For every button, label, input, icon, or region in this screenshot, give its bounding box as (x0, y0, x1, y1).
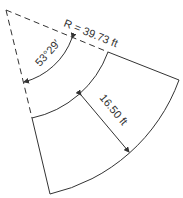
annular-sector-diagram: R = 39.73 ft 53°29′ 16.50 ft (0, 0, 183, 198)
dashed-radius-left (6, 10, 32, 118)
sector-left-edge (32, 118, 50, 194)
radius-label: R = 39.73 ft (62, 17, 120, 50)
outer-arc (50, 80, 179, 194)
width-label: 16.50 ft (97, 92, 130, 128)
sector-top-edge (108, 52, 179, 80)
angle-label: 53°29′ (33, 37, 63, 68)
